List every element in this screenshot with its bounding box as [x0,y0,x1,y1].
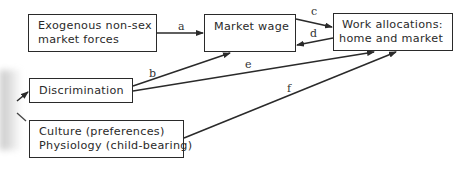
edge-label-f: f [287,82,291,95]
node-label-line: home and market [339,32,452,46]
node-label-line: Physiology (child-bearing) [39,139,183,153]
edge-c [296,19,332,27]
node-label-line: Culture (preferences) [39,125,183,139]
edge-label-b: b [149,67,156,80]
node-market-wage: Market wage [204,14,296,52]
node-exogenous-forces: Exogenous non-sex market forces [28,14,157,52]
edge-fragment-culture [17,113,26,121]
edge-b [133,53,230,86]
node-label-line: Exogenous non-sex [38,19,156,33]
node-culture-physiology: Culture (preferences) Physiology (child-… [29,120,184,158]
node-label-line: Market wage [214,20,295,34]
node-work-allocations: Work allocations: home and market [333,13,453,51]
node-label-line: market forces [38,33,156,47]
edge-e [133,52,374,91]
node-discrimination: Discrimination [29,78,133,103]
edge-label-e: e [245,58,252,71]
edge-label-d: d [310,27,317,40]
edge-label-c: c [311,5,317,18]
edge-label-a: a [178,20,185,33]
node-label-line: Work allocations: [339,18,452,32]
edge-fragment-discrimination [17,92,28,101]
node-label-line: Discrimination [39,84,132,98]
